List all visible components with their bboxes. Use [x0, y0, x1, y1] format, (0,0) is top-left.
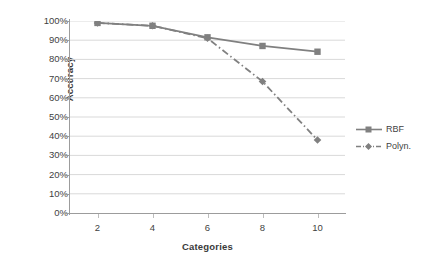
y-axis-tick — [65, 194, 69, 195]
x-tick-label: 4 — [133, 222, 173, 234]
legend-swatch-dashed-diamond-icon — [356, 141, 382, 152]
y-axis-tick — [65, 21, 69, 22]
y-tick-label: 60% — [30, 93, 68, 103]
plot-canvas — [70, 21, 345, 213]
y-tick-label: 50% — [30, 112, 68, 122]
x-axis-tick-labels: 246810 — [0, 222, 426, 236]
y-tick-label: 30% — [30, 150, 68, 160]
y-tick-label: 100% — [30, 16, 68, 26]
chart-legend: RBF Polyn. — [356, 121, 424, 155]
y-axis-tick — [65, 136, 69, 137]
plot-area — [70, 21, 345, 213]
legend-item-rbf[interactable]: RBF — [356, 121, 424, 138]
y-axis-tick — [65, 175, 69, 176]
x-axis-tick — [98, 214, 99, 218]
y-tick-label: 40% — [30, 131, 68, 141]
x-axis-tick — [208, 214, 209, 218]
y-axis-tick — [65, 79, 69, 80]
x-axis-tick — [263, 214, 264, 218]
legend-item-polyn[interactable]: Polyn. — [356, 138, 424, 155]
y-tick-label: 20% — [30, 170, 68, 180]
x-tick-label: 6 — [188, 222, 228, 234]
data-point-marker-square — [314, 49, 320, 55]
legend-label-rbf: RBF — [386, 124, 404, 135]
x-axis-title: Categories — [70, 241, 345, 252]
legend-swatch-solid-square-icon — [356, 124, 382, 135]
y-tick-label: 0% — [30, 208, 68, 218]
data-point-marker-square — [259, 43, 265, 49]
y-axis-tick — [65, 98, 69, 99]
y-axis-tick — [65, 40, 69, 41]
y-axis-tick — [65, 59, 69, 60]
y-axis-tick — [65, 213, 69, 214]
y-axis-tick-labels: 0%10%20%30%40%50%60%70%80%90%100% — [30, 14, 68, 214]
x-tick-label: 2 — [78, 222, 118, 234]
x-axis-tick — [153, 214, 154, 218]
x-tick-label: 8 — [243, 222, 283, 234]
line-chart: Accuracy 0%10%20%30%40%50%60%70%80%90%10… — [0, 0, 426, 268]
y-tick-label: 70% — [30, 74, 68, 84]
y-axis-tick — [65, 155, 69, 156]
x-axis-tick — [318, 214, 319, 218]
y-tick-label: 90% — [30, 35, 68, 45]
y-tick-label: 10% — [30, 189, 68, 199]
y-axis-tick — [65, 117, 69, 118]
legend-label-polyn: Polyn. — [386, 141, 411, 152]
x-tick-label: 10 — [298, 222, 338, 234]
y-tick-label: 80% — [30, 54, 68, 64]
